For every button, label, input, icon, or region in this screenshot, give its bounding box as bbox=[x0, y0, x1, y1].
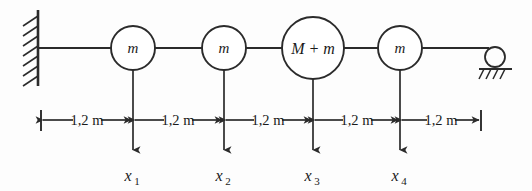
svg-text:x: x bbox=[214, 167, 222, 184]
dimension-3: 1,2 m bbox=[226, 112, 311, 128]
svg-text:x: x bbox=[303, 167, 311, 184]
coord-x4-subscript: 4 bbox=[401, 175, 407, 187]
mass-3[interactable]: M + m bbox=[282, 17, 344, 79]
coord-x3-subscript: 3 bbox=[314, 175, 320, 187]
svg-text:x: x bbox=[390, 167, 398, 184]
roller-circle-icon bbox=[485, 47, 505, 67]
roller-ground-hatching-icon bbox=[479, 69, 505, 79]
roller-support bbox=[479, 47, 512, 79]
coord-x4-label: x 4 bbox=[390, 167, 407, 187]
mechanics-diagram: m m M + m m bbox=[0, 0, 532, 191]
coord-x2-subscript: 2 bbox=[225, 175, 231, 187]
svg-text:x: x bbox=[123, 167, 131, 184]
diagram-canvas: m m M + m m bbox=[0, 0, 532, 191]
dimension-5-label: 1,2 m bbox=[424, 112, 458, 128]
mass-1-label: m bbox=[128, 40, 139, 56]
mass-4-label: m bbox=[395, 40, 406, 56]
coord-x1-label: x 1 bbox=[123, 167, 139, 187]
mass-2[interactable]: m bbox=[202, 26, 246, 70]
coord-x2-label: x 2 bbox=[214, 167, 230, 187]
coord-x1-subscript: 1 bbox=[134, 175, 140, 187]
coord-x3-label: x 3 bbox=[303, 167, 320, 187]
dimension-3-label: 1,2 m bbox=[251, 112, 285, 128]
wall-support bbox=[23, 10, 38, 86]
coordinate-arrows-group bbox=[133, 70, 400, 150]
mass-2-label: m bbox=[219, 40, 230, 56]
wall-hatching-icon bbox=[23, 16, 38, 86]
dimension-2: 1,2 m bbox=[135, 112, 222, 128]
mass-3-label: M + m bbox=[290, 40, 335, 57]
dimension-4: 1,2 m bbox=[315, 112, 398, 128]
dimension-1-label: 1,2 m bbox=[70, 112, 104, 128]
dimension-4-label: 1,2 m bbox=[340, 112, 374, 128]
mass-4[interactable]: m bbox=[378, 26, 422, 70]
dimension-1: 1,2 m bbox=[43, 112, 131, 128]
mass-1[interactable]: m bbox=[111, 26, 155, 70]
dimension-5: 1,2 m bbox=[402, 112, 479, 128]
dimension-2-label: 1,2 m bbox=[161, 112, 195, 128]
coordinate-labels-group: x 1 x 2 x 3 x 4 bbox=[123, 167, 407, 187]
